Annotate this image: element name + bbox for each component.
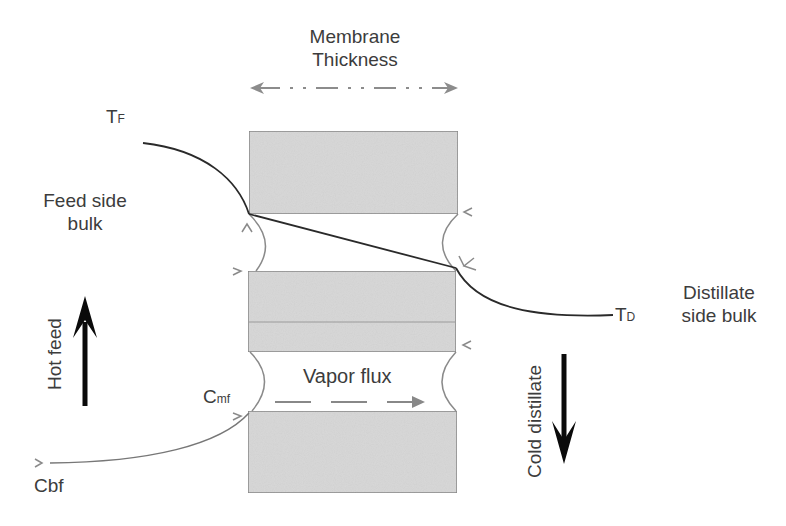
td-sub: D (627, 310, 636, 324)
td-main: T (615, 304, 627, 325)
hot-feed-arrow (73, 296, 97, 406)
membrane-block-middle (248, 271, 456, 352)
feed-temperature-curve (143, 143, 249, 214)
distillate-line1: Distillate (664, 282, 774, 305)
membrane-temperature-gradient (249, 214, 456, 268)
td-label: TD (615, 304, 635, 327)
cmf-label: Cmf (203, 386, 230, 409)
tf-sub: F (118, 112, 125, 126)
membrane-block-top (249, 131, 458, 214)
cmf-main: C (203, 386, 217, 407)
tf-label: TF (106, 106, 125, 129)
vapor-flux-arrow (275, 396, 425, 408)
cold-distillate-arrow (552, 354, 576, 464)
diagram-canvas (0, 0, 786, 526)
concentration-profile (50, 413, 249, 463)
vapor-flux-label: Vapor flux (303, 364, 392, 388)
tf-main: T (106, 106, 118, 127)
title-line1: Membrane (300, 26, 410, 49)
feed-side-line1: Feed side (30, 190, 140, 213)
title-line2: Thickness (300, 49, 410, 72)
membrane-thickness-title: Membrane Thickness (300, 26, 410, 72)
membrane-block-bottom (248, 411, 457, 493)
membrane-thickness-arrow (250, 82, 458, 94)
distillate-side-bulk-label: Distillate side bulk (664, 282, 774, 328)
feed-side-line2: bulk (30, 213, 140, 236)
distillate-temperature-curve (456, 268, 613, 316)
hot-feed-label: Hot feed (44, 318, 67, 390)
distillate-line2: side bulk (664, 305, 774, 328)
cmf-sub: mf (217, 392, 230, 406)
feed-side-bulk-label: Feed side bulk (30, 190, 140, 236)
cold-distillate-label: Cold distillate (524, 365, 547, 478)
cbf-label: Cbf (34, 475, 64, 498)
